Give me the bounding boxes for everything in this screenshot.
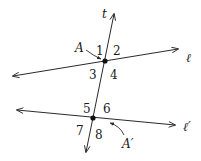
label-l: ℓ [186, 51, 191, 65]
line-l-prime [17, 110, 175, 125]
angle-label-6: 6 [103, 102, 111, 116]
angle-label-5: 5 [83, 102, 91, 116]
label-a-prime: A′ [121, 137, 134, 151]
angle-label-4: 4 [110, 68, 118, 82]
point-a-prime [90, 115, 95, 120]
angle-label-2: 2 [113, 44, 121, 58]
label-t: t [102, 7, 107, 21]
label-a: A [74, 41, 84, 55]
label-l-prime: ℓ′ [183, 120, 191, 134]
angle-label-7: 7 [76, 124, 84, 138]
angle-label-1: 1 [96, 44, 104, 58]
angle-label-3: 3 [89, 68, 97, 82]
pointer-arrow-a-prime [110, 123, 124, 135]
angle-label-8: 8 [95, 128, 103, 142]
transversal-diagram: t ℓ ℓ′ A A′ 1 2 3 4 5 6 7 8 [0, 0, 201, 161]
point-a [102, 58, 107, 63]
